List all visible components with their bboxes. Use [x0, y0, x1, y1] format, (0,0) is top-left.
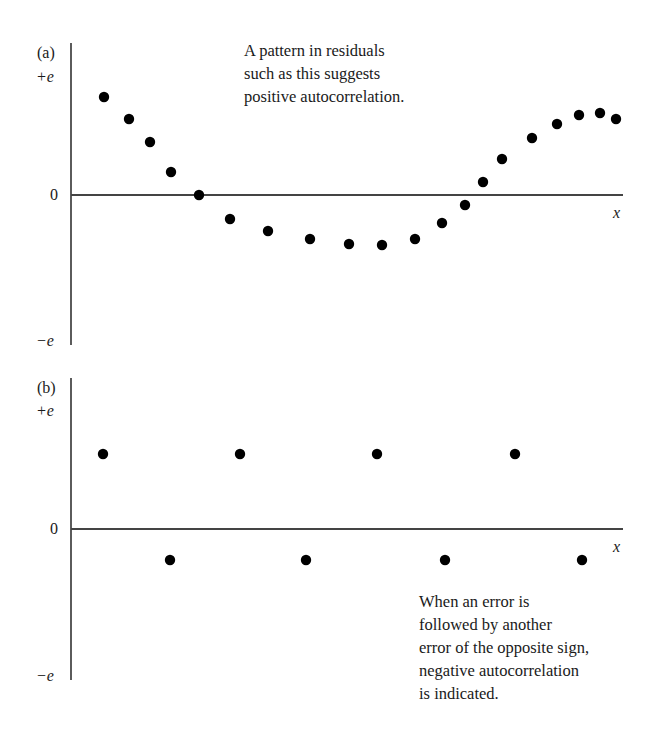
panel-b-plus-e-label: +e — [36, 402, 54, 420]
panel-a-annotation-line: A pattern in residuals — [244, 39, 404, 62]
data-point — [527, 133, 537, 143]
panel-b-annotation-line: is indicated. — [419, 682, 589, 705]
panel-a-annotation-line: positive autocorrelation. — [244, 85, 404, 108]
data-point — [166, 167, 176, 177]
panel-b-minus-e-label: −e — [36, 667, 54, 685]
panel-b-annotation-line: When an error is — [419, 590, 589, 613]
panel-b-x-label: x — [613, 538, 620, 556]
data-point — [225, 214, 235, 224]
data-point — [611, 114, 621, 124]
panel-a-annotation-line: such as this suggests — [244, 62, 404, 85]
data-point — [552, 119, 562, 129]
data-point — [305, 234, 315, 244]
data-point — [440, 555, 450, 565]
data-point — [595, 108, 605, 118]
panel-b-annotation: When an error is followed by another err… — [419, 590, 589, 705]
data-point — [98, 449, 108, 459]
panel-a-label: (a) — [37, 44, 55, 62]
panel-a-plus-e-label: +e — [36, 68, 54, 86]
data-point — [510, 449, 520, 459]
panel-b-points — [98, 449, 587, 565]
data-point — [344, 239, 354, 249]
data-point — [577, 555, 587, 565]
data-point — [99, 92, 109, 102]
data-point — [478, 177, 488, 187]
data-point — [301, 555, 311, 565]
data-point — [165, 555, 175, 565]
panel-a-annotation: A pattern in residuals such as this sugg… — [244, 39, 404, 108]
panel-a-plus-e-text: +e — [36, 68, 54, 85]
panel-a-points — [99, 92, 621, 250]
data-point — [372, 449, 382, 459]
data-point — [145, 137, 155, 147]
data-point — [437, 218, 447, 228]
data-point — [574, 110, 584, 120]
data-point — [460, 200, 470, 210]
panel-b-annotation-line: negative autocorrelation — [419, 659, 589, 682]
panel-b-label: (b) — [37, 379, 56, 397]
panel-b-annotation-line: error of the opposite sign, — [419, 636, 589, 659]
data-point — [263, 226, 273, 236]
panel-a-x-label: x — [613, 204, 620, 222]
data-point — [124, 114, 134, 124]
data-point — [410, 234, 420, 244]
panel-b-zero-label: 0 — [50, 520, 58, 538]
panel-a-zero-label: 0 — [50, 186, 58, 204]
data-point — [377, 240, 387, 250]
panel-a-minus-e-label: −e — [36, 332, 54, 350]
panel-b-annotation-line: followed by another — [419, 613, 589, 636]
data-point — [194, 190, 204, 200]
data-point — [235, 449, 245, 459]
data-point — [497, 154, 507, 164]
